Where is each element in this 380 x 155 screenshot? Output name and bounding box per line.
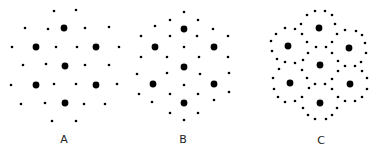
small-dot: [169, 93, 172, 96]
large-dot: [150, 81, 157, 88]
large-dot: [93, 82, 100, 89]
small-dot: [108, 64, 111, 67]
small-dot: [354, 65, 357, 68]
small-dot: [140, 35, 143, 38]
small-dot: [10, 84, 13, 87]
small-dot: [75, 120, 78, 123]
small-dot: [324, 83, 327, 86]
small-dot: [272, 77, 275, 80]
small-dot: [20, 103, 23, 106]
small-dot: [47, 28, 50, 31]
small-dot: [228, 91, 231, 94]
small-dot: [314, 83, 317, 86]
panel-a-label: A: [60, 133, 68, 146]
small-dot: [361, 34, 364, 37]
small-dot: [331, 88, 334, 91]
small-dot: [136, 73, 139, 76]
small-dot: [276, 58, 279, 61]
small-dot: [324, 10, 327, 13]
large-dot: [93, 44, 100, 51]
small-dot: [198, 56, 201, 59]
small-dot: [197, 93, 200, 96]
small-dot: [197, 19, 200, 22]
small-dot: [315, 46, 318, 49]
small-dot: [45, 63, 48, 66]
small-dot: [361, 70, 364, 73]
small-dot: [271, 50, 274, 53]
small-dot: [314, 10, 317, 13]
small-dot: [344, 65, 347, 68]
small-dot: [360, 61, 363, 64]
small-dot: [84, 64, 87, 67]
small-dot: [325, 118, 328, 121]
small-dot: [44, 102, 47, 105]
small-dot: [199, 73, 202, 76]
large-dot: [317, 100, 324, 107]
small-dot: [364, 42, 367, 45]
small-dot: [325, 46, 328, 49]
small-dot: [334, 23, 337, 26]
small-dot: [108, 26, 111, 29]
small-dot: [314, 118, 317, 121]
large-dot: [181, 100, 188, 107]
panel-c-dot-pattern: [270, 10, 369, 121]
large-dot: [33, 82, 40, 89]
small-dot: [53, 10, 56, 13]
small-dot: [84, 27, 87, 30]
large-dot: [211, 81, 218, 88]
small-dot: [183, 84, 186, 87]
small-dot: [365, 52, 368, 55]
large-dot: [347, 81, 354, 88]
dot-pattern-figure: [0, 0, 380, 155]
small-dot: [227, 56, 230, 59]
small-dot: [166, 72, 169, 75]
small-dot: [76, 46, 79, 49]
small-dot: [307, 114, 310, 117]
small-dot: [344, 29, 347, 32]
small-dot: [212, 28, 215, 31]
small-dot: [227, 35, 230, 38]
small-dot: [306, 41, 309, 44]
small-dot: [301, 33, 304, 36]
small-dot: [183, 119, 186, 122]
small-dot: [53, 83, 56, 86]
panel-a-dot-pattern: [10, 9, 121, 123]
small-dot: [294, 100, 297, 103]
small-dot: [22, 64, 25, 67]
small-dot: [75, 9, 78, 12]
small-dot: [166, 56, 169, 59]
small-dot: [294, 28, 297, 31]
small-dot: [270, 40, 273, 43]
small-dot: [366, 88, 369, 91]
small-dot: [284, 101, 287, 104]
small-dot: [361, 96, 364, 99]
small-dot: [355, 30, 358, 33]
small-dot: [118, 46, 121, 49]
small-dot: [55, 46, 58, 49]
large-dot: [33, 44, 40, 51]
panel-b-label: B: [179, 133, 187, 146]
small-dot: [354, 100, 357, 103]
small-dot: [11, 46, 14, 49]
large-dot: [287, 80, 294, 87]
small-dot: [151, 101, 154, 104]
panel-b-dot-pattern: [136, 11, 231, 122]
small-dot: [331, 41, 334, 44]
small-dot: [284, 61, 287, 64]
small-dot: [366, 77, 369, 80]
small-dot: [104, 103, 107, 106]
small-dot: [302, 107, 305, 110]
small-dot: [154, 25, 157, 28]
small-dot: [344, 100, 347, 103]
small-dot: [169, 35, 172, 38]
large-dot: [181, 64, 188, 71]
small-dot: [331, 52, 334, 55]
small-dot: [140, 56, 143, 59]
large-dot: [152, 44, 159, 51]
small-dot: [183, 11, 186, 14]
small-dot: [277, 96, 280, 99]
small-dot: [169, 19, 172, 22]
large-dot: [62, 100, 69, 107]
small-dot: [196, 35, 199, 38]
small-dot: [331, 114, 334, 117]
